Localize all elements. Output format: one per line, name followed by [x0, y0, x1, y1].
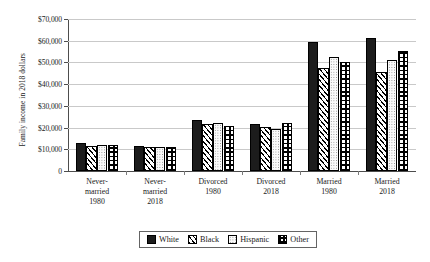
y-tick-label: $70,000 [38, 15, 62, 24]
chart-legend: White Black Hispanic Other [139, 231, 317, 248]
x-axis-label-line: 1980 [180, 187, 246, 197]
y-tick-mark [64, 84, 68, 85]
bar-black-married-1980 [318, 68, 328, 171]
legend-label-hispanic: Hispanic [240, 235, 269, 244]
bar-black-married-2018 [376, 72, 386, 171]
gridline [68, 149, 416, 150]
x-axis-label-line: 2018 [238, 187, 304, 197]
gridline [68, 84, 416, 85]
bar-chart-figure: Family income in 2018 dollars $70,000$60… [0, 0, 430, 262]
x-tick-mark [184, 171, 185, 175]
x-axis-label-line: Never- [122, 177, 188, 187]
bar-group [76, 19, 119, 171]
y-tick-label: $10,000 [38, 145, 62, 154]
legend-swatch-black-icon [188, 235, 197, 244]
y-axis-line [68, 19, 69, 171]
legend-label-other: Other [290, 235, 309, 244]
bar-other-married-1980 [340, 62, 350, 171]
bar-group [250, 19, 293, 171]
bar-other-divorced-2018 [282, 123, 292, 171]
bar-black-divorced-1980 [202, 124, 212, 171]
gridline [68, 106, 416, 107]
x-axis-label-line: 2018 [354, 187, 420, 197]
gridline [68, 128, 416, 129]
bar-other-married-2018 [398, 51, 408, 171]
x-axis-label-line: 1980 [64, 197, 130, 207]
x-axis-label-line: Married [296, 177, 362, 187]
gridline [68, 19, 416, 20]
bar-group [192, 19, 235, 171]
x-axis-label-line: married [122, 187, 188, 197]
bar-other-never-married-2018 [166, 147, 176, 171]
x-tick-mark [126, 171, 127, 175]
bar-white-never-married-2018 [134, 146, 144, 171]
x-tick-mark [300, 171, 301, 175]
y-tick-mark [64, 171, 68, 172]
y-tick-mark [64, 62, 68, 63]
y-tick-mark [64, 149, 68, 150]
legend-item-other: Other [278, 235, 309, 244]
y-tick-mark [64, 41, 68, 42]
y-tick-mark [64, 128, 68, 129]
bar-other-divorced-1980 [224, 126, 234, 171]
bar-black-never-married-1980 [86, 146, 96, 171]
x-axis-label-married-1980: Married1980 [296, 177, 362, 197]
legend-swatch-hispanic-icon [228, 235, 237, 244]
legend-label-white: White [159, 235, 179, 244]
bar-group [366, 19, 409, 171]
bar-hispanic-never-married-2018 [155, 147, 165, 171]
y-tick-label: 0 [58, 167, 62, 176]
x-axis-label-divorced-2018: Divorced2018 [238, 177, 304, 197]
x-axis-label-never-married-2018: Never-married2018 [122, 177, 188, 208]
bar-white-divorced-2018 [250, 124, 260, 171]
bar-hispanic-married-2018 [387, 60, 397, 171]
gridline [68, 62, 416, 63]
x-axis-label-divorced-1980: Divorced1980 [180, 177, 246, 197]
bar-hispanic-never-married-1980 [97, 145, 107, 171]
y-tick-mark [64, 19, 68, 20]
y-tick-label: $40,000 [38, 80, 62, 89]
y-tick-label: $30,000 [38, 101, 62, 110]
bar-hispanic-divorced-2018 [271, 129, 281, 171]
x-axis-label-line: Divorced [238, 177, 304, 187]
bar-black-divorced-2018 [260, 127, 270, 172]
x-axis-label-line: Divorced [180, 177, 246, 187]
y-tick-label: $50,000 [38, 58, 62, 67]
bar-other-never-married-1980 [108, 145, 118, 171]
x-tick-mark [242, 171, 243, 175]
x-axis-label-married-2018: Married2018 [354, 177, 420, 197]
x-axis-label-line: Never- [64, 177, 130, 187]
y-tick-label: $60,000 [38, 36, 62, 45]
plot-area: $70,000$60,000$50,000$40,000$30,000$20,0… [68, 19, 416, 171]
legend-label-black: Black [200, 235, 219, 244]
legend-item-hispanic: Hispanic [228, 235, 269, 244]
y-tick-mark [64, 106, 68, 107]
bar-white-never-married-1980 [76, 143, 86, 171]
bar-hispanic-married-1980 [329, 57, 339, 171]
x-axis-label-line: Married [354, 177, 420, 187]
legend-item-white: White [147, 235, 179, 244]
x-axis-label-line: 2018 [122, 197, 188, 207]
bar-group [308, 19, 351, 171]
bar-white-married-2018 [366, 38, 376, 171]
y-axis-title: Family income in 2018 dollars [19, 15, 26, 185]
bar-group [134, 19, 177, 171]
x-axis-label-never-married-1980: Never-married1980 [64, 177, 130, 208]
bar-black-never-married-2018 [144, 147, 154, 171]
legend-swatch-white-icon [147, 235, 156, 244]
x-axis-label-line: married [64, 187, 130, 197]
legend-item-black: Black [188, 235, 219, 244]
bar-white-divorced-1980 [192, 120, 202, 171]
bar-white-married-1980 [308, 42, 318, 171]
legend-swatch-other-icon [278, 235, 287, 244]
x-axis-label-line: 1980 [296, 187, 362, 197]
y-tick-label: $20,000 [38, 123, 62, 132]
x-tick-mark [358, 171, 359, 175]
gridline [68, 41, 416, 42]
bar-hispanic-divorced-1980 [213, 123, 223, 171]
